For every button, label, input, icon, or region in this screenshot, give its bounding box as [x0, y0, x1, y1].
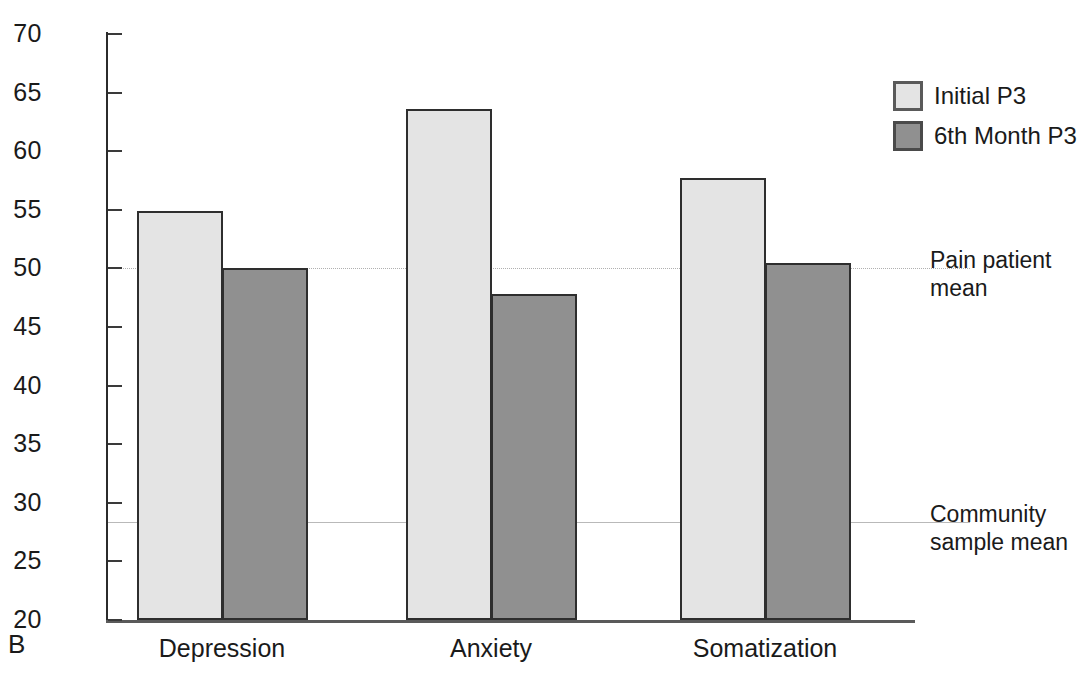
legend-swatch: [893, 81, 923, 111]
y-axis-tick: [108, 150, 122, 152]
y-axis-tick-label: 65: [0, 80, 42, 105]
y-axis-tick: [108, 267, 122, 269]
y-axis-tick: [108, 33, 122, 35]
reference-line-label: Pain patient mean: [930, 246, 1051, 302]
y-axis-tick: [108, 209, 122, 211]
y-axis-tick: [108, 560, 122, 562]
legend-label: 6th Month P3: [934, 122, 1077, 150]
reference-line-label: Community sample mean: [930, 500, 1068, 556]
x-axis-category-label: Anxiety: [361, 634, 621, 662]
bar: [680, 178, 766, 620]
legend-item: 6th Month P3: [893, 118, 1077, 154]
bar: [137, 211, 223, 620]
legend-label: Initial P3: [934, 82, 1026, 110]
chart-legend: Initial P36th Month P3: [893, 78, 1077, 158]
y-axis-tick: [108, 502, 122, 504]
y-axis-tick-label: 55: [0, 197, 42, 222]
y-axis-tick-label: 60: [0, 138, 42, 163]
y-axis-tick-label: 70: [0, 21, 42, 46]
bar: [491, 294, 577, 620]
x-axis-line: [106, 620, 915, 623]
x-axis-category-label: Somatization: [635, 634, 895, 662]
y-axis-tick-label: 50: [0, 255, 42, 280]
chart-figure: 7065605550454035302520 DepressionAnxiety…: [0, 0, 1090, 680]
legend-swatch: [893, 121, 923, 151]
panel-label: B: [8, 630, 25, 658]
y-axis-tick: [108, 443, 122, 445]
x-axis-category-label: Depression: [92, 634, 352, 662]
y-axis-tick-label: 40: [0, 373, 42, 398]
y-axis-tick-label: 35: [0, 431, 42, 456]
y-axis-tick-label: 25: [0, 548, 42, 573]
y-axis-tick-label: 45: [0, 314, 42, 339]
bar: [765, 263, 851, 620]
legend-item: Initial P3: [893, 78, 1077, 114]
bar: [222, 268, 308, 620]
y-axis-tick: [108, 385, 122, 387]
y-axis-tick: [108, 326, 122, 328]
bar: [406, 109, 492, 620]
y-axis-tick: [108, 92, 122, 94]
y-axis-tick-label: 30: [0, 490, 42, 515]
y-axis-tick: [108, 619, 122, 621]
